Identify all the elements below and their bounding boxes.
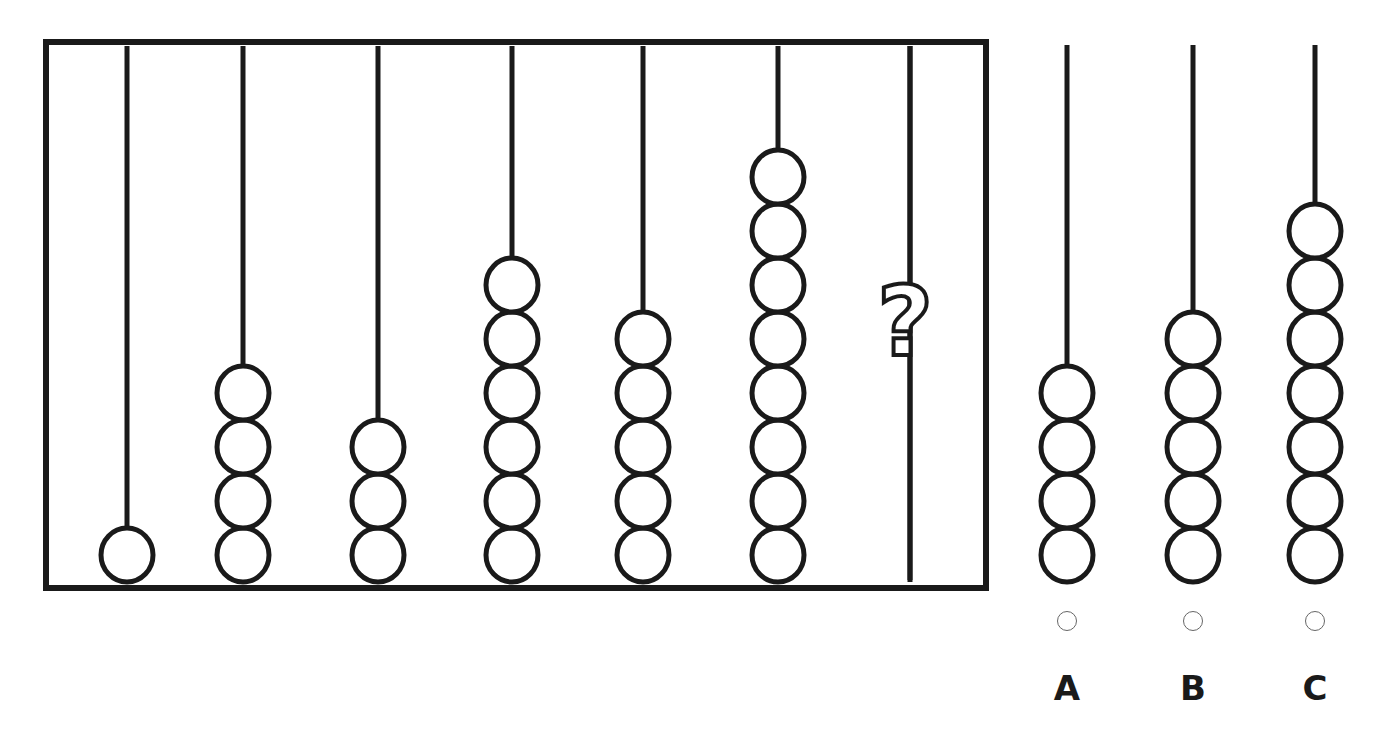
bead	[752, 366, 804, 420]
bead	[101, 528, 153, 582]
option-c-label: C	[1303, 668, 1328, 708]
bead	[752, 204, 804, 258]
rod-1	[101, 46, 153, 582]
bead	[617, 312, 669, 366]
bead	[352, 474, 404, 528]
bead	[217, 366, 269, 420]
bead	[1167, 312, 1219, 366]
bead	[1289, 312, 1341, 366]
abacus-puzzle-figure: ?	[0, 0, 1390, 732]
bead	[1167, 420, 1219, 474]
option-b-radio[interactable]	[1183, 611, 1203, 631]
bead	[752, 420, 804, 474]
abacus-rods: ?	[101, 46, 933, 582]
bead	[617, 528, 669, 582]
bead	[752, 258, 804, 312]
bead	[486, 258, 538, 312]
rod-4	[486, 46, 538, 582]
bead	[486, 312, 538, 366]
bead	[617, 420, 669, 474]
rod-2	[217, 46, 269, 582]
bead	[1289, 204, 1341, 258]
option-c-rod	[1289, 45, 1341, 582]
option-a-radio[interactable]	[1057, 611, 1077, 631]
bead	[352, 528, 404, 582]
rod-5	[617, 46, 669, 582]
bead	[1167, 366, 1219, 420]
bead	[752, 150, 804, 204]
bead	[1041, 474, 1093, 528]
question-mark-icon: ?	[877, 266, 933, 378]
rod-3	[352, 46, 404, 582]
rod-7: ?	[877, 46, 933, 582]
bead	[1289, 258, 1341, 312]
option-b-rod	[1167, 45, 1219, 582]
bead	[1041, 528, 1093, 582]
bead	[1289, 528, 1341, 582]
bead	[752, 474, 804, 528]
bead	[617, 474, 669, 528]
bead	[486, 420, 538, 474]
bead	[617, 366, 669, 420]
bead	[1289, 420, 1341, 474]
bead	[486, 474, 538, 528]
rod-6	[752, 46, 804, 582]
bead	[217, 528, 269, 582]
option-a-label: A	[1054, 668, 1080, 708]
bead	[352, 420, 404, 474]
bead	[1041, 420, 1093, 474]
bead	[1289, 366, 1341, 420]
option-a-rod	[1041, 45, 1093, 582]
bead	[1167, 474, 1219, 528]
bead	[1041, 366, 1093, 420]
bead	[1289, 474, 1341, 528]
bead	[752, 528, 804, 582]
bead	[486, 366, 538, 420]
bead	[217, 420, 269, 474]
option-b-label: B	[1180, 668, 1206, 708]
bead	[1167, 528, 1219, 582]
bead	[752, 312, 804, 366]
answer-options	[1041, 45, 1341, 582]
option-c-radio[interactable]	[1305, 611, 1325, 631]
bead	[217, 474, 269, 528]
bead	[486, 528, 538, 582]
